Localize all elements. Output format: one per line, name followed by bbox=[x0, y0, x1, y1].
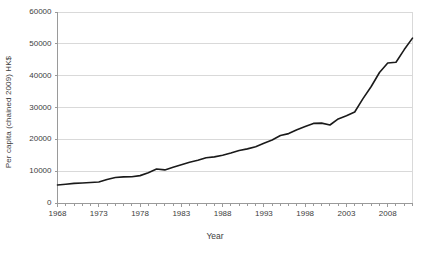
y-tick-label: 50000 bbox=[8, 39, 52, 48]
y-tick-label: 30000 bbox=[8, 103, 52, 112]
y-tick-label: 40000 bbox=[8, 71, 52, 80]
x-tick-label: 1993 bbox=[244, 209, 284, 218]
y-tick-label: 20000 bbox=[8, 134, 52, 143]
x-tick-label: 1988 bbox=[203, 209, 243, 218]
tick-marks bbox=[55, 12, 413, 207]
x-tick-label: 2003 bbox=[326, 209, 366, 218]
x-tick-label: 1998 bbox=[285, 209, 325, 218]
data-series-line bbox=[58, 38, 413, 185]
x-tick-label: 1983 bbox=[161, 209, 201, 218]
x-tick-label: 1973 bbox=[79, 209, 119, 218]
x-tick-label: 1978 bbox=[120, 209, 160, 218]
x-tick-label: 1968 bbox=[38, 209, 78, 218]
gridlines bbox=[58, 12, 413, 171]
y-tick-label: 10000 bbox=[8, 166, 52, 175]
chart-figure: Per capita (chained 2009) HK$ Year 01000… bbox=[0, 0, 430, 255]
x-tick-label: 2008 bbox=[368, 209, 408, 218]
y-tick-label: 60000 bbox=[8, 7, 52, 16]
y-tick-label: 0 bbox=[8, 198, 52, 207]
